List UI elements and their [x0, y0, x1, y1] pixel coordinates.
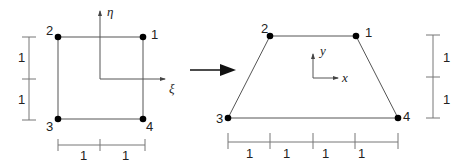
eta-label: η	[107, 4, 113, 19]
left-element: η ξ 1 2 3 4 1 1 1 1	[18, 4, 175, 163]
xi-label: ξ	[169, 81, 175, 96]
node-2	[55, 34, 62, 41]
node-1-label: 1	[151, 27, 158, 42]
node-2-label: 2	[46, 23, 53, 38]
dim-label: 1	[283, 146, 290, 161]
x-label: x	[341, 70, 348, 85]
node-1	[353, 33, 360, 40]
dim-label: 1	[122, 148, 129, 163]
dim-label: 1	[358, 146, 365, 161]
y-label: y	[318, 43, 326, 58]
dim-label: 1	[18, 50, 25, 65]
node-1	[140, 34, 147, 41]
isoparametric-mapping-diagram: η ξ 1 2 3 4 1 1 1 1 y x	[0, 0, 463, 166]
node-2-label: 2	[261, 21, 268, 36]
right-element: y x 1 2 3 4 1 1 1 1 1 1	[216, 21, 450, 161]
node-4	[395, 115, 402, 122]
node-3-label: 3	[46, 119, 53, 134]
dim-label: 1	[80, 148, 87, 163]
node-3	[225, 115, 232, 122]
dim-label: 1	[246, 146, 253, 161]
node-3-label: 3	[216, 111, 223, 126]
node-3	[55, 116, 62, 123]
dim-label: 1	[443, 92, 450, 107]
mapping-arrow-icon	[190, 64, 236, 76]
dim-label: 1	[18, 92, 25, 107]
node-1-label: 1	[365, 25, 372, 40]
node-4-label: 4	[146, 119, 153, 134]
dim-label: 1	[443, 50, 450, 65]
dim-label: 1	[322, 146, 329, 161]
node-4-label: 4	[403, 109, 410, 124]
